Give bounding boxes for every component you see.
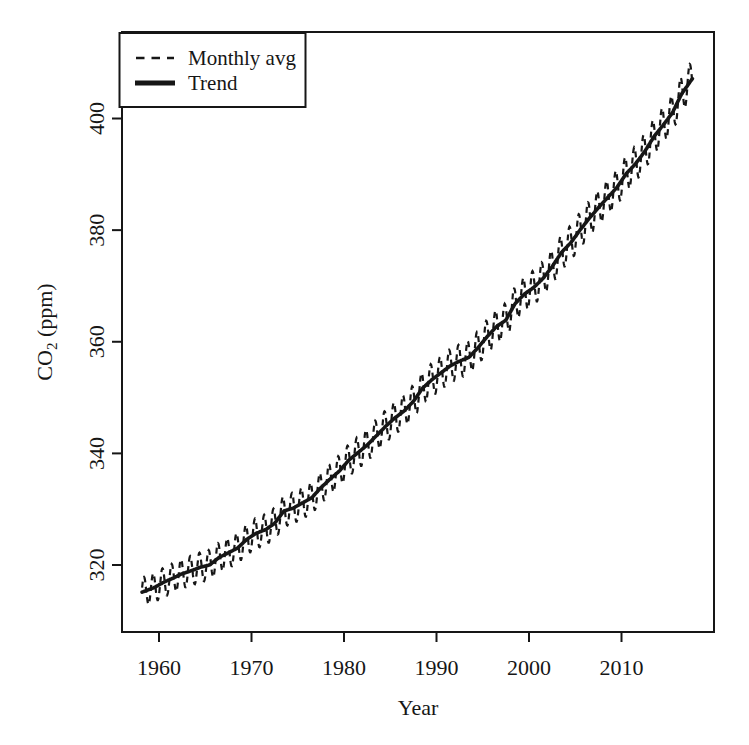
y-axis-title-rest: (ppm) [32,283,57,342]
y-tick-label: 360 [84,325,109,358]
x-tick-label: 2010 [600,655,644,680]
y-tick-label: 380 [84,214,109,247]
x-tick-label: 1980 [322,655,366,680]
monthly-avg-line [142,64,692,604]
trend-line [142,79,692,593]
y-tick-label: 320 [84,549,109,582]
y-tick-label: 340 [84,437,109,470]
x-axis-title: Year [398,695,439,720]
y-axis-title-subscript: 2 [44,343,60,351]
x-tick-label: 1990 [415,655,459,680]
chart-canvas: 196019701980199020002010320340360380400 … [0,0,749,745]
x-tick-label: 1960 [137,655,181,680]
legend-label-trend: Trend [188,71,238,95]
co2-keeling-curve-figure: 196019701980199020002010320340360380400 … [0,0,749,745]
x-tick-label: 1970 [230,655,274,680]
y-axis-title: CO2 (ppm) [32,283,60,380]
y-axis-title-main: CO [32,350,57,381]
x-tick-label: 2000 [507,655,551,680]
legend: Monthly avg Trend [120,33,306,107]
plot-border [122,32,714,632]
legend-box [120,33,306,107]
legend-label-monthly-avg: Monthly avg [188,46,296,70]
y-tick-label: 400 [84,102,109,135]
